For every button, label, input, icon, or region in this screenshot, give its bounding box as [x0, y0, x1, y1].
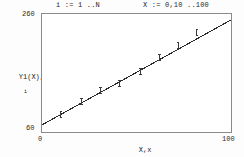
plot-screenshot: i := 1 ..N X := 0,10 ..100 260 60 0 100 … — [0, 0, 244, 157]
x-axis-min-label: 0 — [38, 135, 42, 143]
index-definition-annotation: i := 1 ..N — [56, 1, 100, 10]
plot-canvas — [42, 14, 231, 132]
x-axis-title-main: X,x — [139, 146, 152, 154]
data-point-markers — [60, 29, 199, 118]
plot-frame — [41, 13, 232, 133]
regression-line — [42, 20, 231, 125]
y-axis-min-label: 60 — [26, 124, 34, 132]
data-point-marker — [196, 29, 199, 35]
x-axis-title: X,x i — [122, 138, 151, 157]
range-definition-annotation: X := 0,10 ..100 — [143, 1, 209, 10]
regression-line-segment — [42, 20, 231, 125]
data-point-marker — [177, 42, 180, 48]
y-axis-max-label: 260 — [22, 10, 35, 18]
x-axis-max-label: 100 — [222, 135, 235, 143]
